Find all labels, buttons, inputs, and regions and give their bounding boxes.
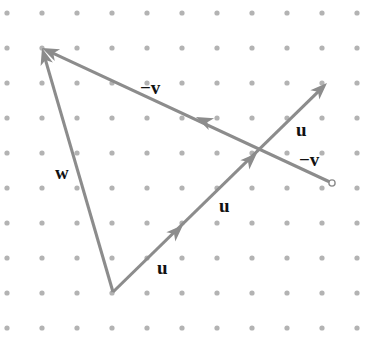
grid-dot (179, 10, 184, 15)
grid-dot (319, 150, 324, 155)
label-u-right: u (296, 120, 307, 139)
grid-dot (319, 325, 324, 330)
grid-dot (39, 80, 44, 85)
label-u-bottom: u (157, 258, 168, 277)
grid-dot (39, 325, 44, 330)
grid-dot (319, 255, 324, 260)
grid-dot (74, 290, 79, 295)
grid-dot (319, 290, 324, 295)
grid-dot (109, 220, 114, 225)
grid-dot (179, 185, 184, 190)
grid-dot (74, 80, 79, 85)
label-minus-v-right: −v (299, 150, 319, 169)
grid-dot (144, 185, 149, 190)
grid-dot (144, 220, 149, 225)
grid-dot (74, 325, 79, 330)
grid-dot (74, 150, 79, 155)
grid-dot (109, 115, 114, 120)
grid-dot (74, 45, 79, 50)
grid-dot (354, 255, 359, 260)
grid-dot (144, 10, 149, 15)
grid-dot (144, 115, 149, 120)
grid-dot (109, 45, 114, 50)
grid-dot (109, 325, 114, 330)
grid-dot (179, 255, 184, 260)
grid-dot (319, 45, 324, 50)
grid-dot (179, 115, 184, 120)
grid-dot (214, 80, 219, 85)
grid-dot (74, 220, 79, 225)
grid-dot (284, 255, 289, 260)
grid-dot (4, 220, 9, 225)
grid-dot (74, 255, 79, 260)
grid-dot (354, 290, 359, 295)
grid-dot (214, 45, 219, 50)
grid-dot (319, 115, 324, 120)
grid-dot (214, 150, 219, 155)
grid-dot (4, 45, 9, 50)
grid-dot (39, 185, 44, 190)
grid-dot (39, 10, 44, 15)
grid-dot (4, 80, 9, 85)
grid-dot (354, 325, 359, 330)
grid-dot (4, 150, 9, 155)
grid-dot (249, 255, 254, 260)
grid-dot (144, 45, 149, 50)
grid-dot (354, 220, 359, 225)
grid-dot (4, 10, 9, 15)
grid-dot (214, 10, 219, 15)
grid-dot (39, 290, 44, 295)
grid-dot (284, 10, 289, 15)
label-u-middle: u (219, 196, 230, 215)
grid-dot (354, 10, 359, 15)
grid-dot (354, 45, 359, 50)
grid-dot (249, 115, 254, 120)
grid-dot (39, 115, 44, 120)
grid-dot (284, 150, 289, 155)
grid-dot (74, 185, 79, 190)
grid-dot (144, 325, 149, 330)
grid-dot (179, 325, 184, 330)
grid-dot (284, 80, 289, 85)
grid-dot (354, 185, 359, 190)
grid-dot (74, 10, 79, 15)
grid-dot (284, 185, 289, 190)
grid-dot (179, 80, 184, 85)
grid-dot (249, 10, 254, 15)
grid-dot (214, 255, 219, 260)
grid-dot (179, 150, 184, 155)
grid-dot (144, 290, 149, 295)
grid-dot (179, 45, 184, 50)
grid-dot (4, 255, 9, 260)
grid-dot (319, 10, 324, 15)
grid-dot (109, 150, 114, 155)
grid-dot (284, 325, 289, 330)
grid-dot (284, 45, 289, 50)
grid-dot (4, 290, 9, 295)
grid-dot (249, 80, 254, 85)
grid-dot (74, 115, 79, 120)
label-w: w (55, 163, 69, 182)
grid-dot (354, 115, 359, 120)
grid-dot (214, 290, 219, 295)
grid-dot (144, 150, 149, 155)
grid-dot (319, 185, 324, 190)
grid-dot (214, 220, 219, 225)
grid-dot (249, 290, 254, 295)
grid-dot (214, 325, 219, 330)
grid-dot (4, 185, 9, 190)
grid-dot (4, 115, 9, 120)
label-minus-v-top: −v (140, 78, 160, 97)
grid-dot (319, 220, 324, 225)
grid-dot (249, 325, 254, 330)
grid-dot (109, 10, 114, 15)
vector-diagram-figure: −vwu−vuu (0, 0, 386, 345)
grid-dot (214, 115, 219, 120)
grid-dot (249, 185, 254, 190)
grid-dot (39, 255, 44, 260)
grid-dot (39, 150, 44, 155)
minus-v-vector-tail-circle (329, 180, 335, 186)
grid-dot (39, 220, 44, 225)
grid-dot (284, 220, 289, 225)
grid-dot (179, 290, 184, 295)
